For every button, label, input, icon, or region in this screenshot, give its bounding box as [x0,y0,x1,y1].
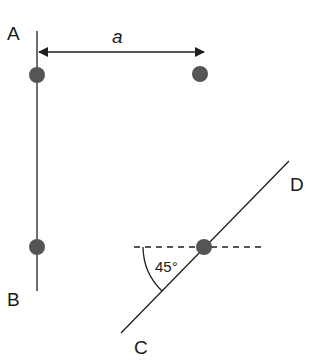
distance-label: a [112,26,123,47]
point-b-dot [29,239,45,255]
label-d: D [290,174,304,195]
angle-label: 45° [155,258,178,275]
diagram-canvas: A B C D a 45° [0,0,318,361]
point-a-dot [29,67,45,83]
label-b: B [7,289,20,310]
rod-cd-center-dot [196,239,212,255]
label-c: C [134,337,148,358]
label-a: A [7,23,20,44]
free-dot [192,66,208,82]
diagram-svg: A B C D a 45° [0,0,318,361]
